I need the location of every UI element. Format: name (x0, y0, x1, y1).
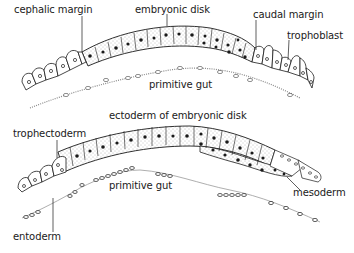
label-primitive-gut-bottom: primitive gut (109, 180, 172, 192)
top-embryo-section (22, 14, 314, 108)
label-ectoderm-of-embryonic-disk: ectoderm of embryonic disk (109, 110, 247, 122)
bottom-right-trophectoderm-cells (270, 150, 321, 182)
top-left-trophoblast-cells (22, 50, 86, 90)
label-cephalic-margin: cephalic margin (14, 4, 92, 16)
label-trophoblast: trophoblast (287, 30, 343, 42)
label-mesoderm: mesoderm (293, 187, 346, 199)
top-right-trophoblast-cells (252, 46, 314, 89)
label-embryonic-disk: embryonic disk (135, 4, 210, 16)
label-caudal-margin: caudal margin (253, 9, 323, 21)
bottom-embryo-section (18, 126, 321, 232)
embryo-cross-section-diagram: cephalic margin embryonic disk caudal ma… (0, 0, 354, 253)
label-entoderm: entoderm (13, 231, 61, 243)
label-primitive-gut-top: primitive gut (149, 79, 212, 91)
label-trophectoderm: trophectoderm (13, 128, 86, 140)
